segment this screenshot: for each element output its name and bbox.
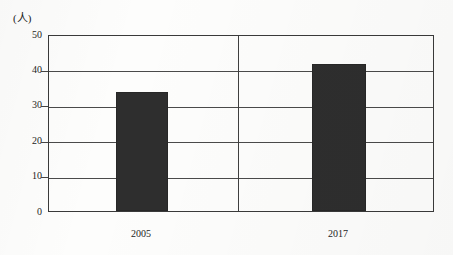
gridline-20 <box>49 142 433 143</box>
bar-2005 <box>116 92 168 211</box>
y-tick-label-20: 20 <box>16 136 42 146</box>
y-tick-label-10: 10 <box>16 171 42 181</box>
bar-chart: (人) 50 40 30 20 10 0 2005 2017 <box>0 0 453 255</box>
x-tick-label-2017: 2017 <box>311 228 365 239</box>
y-tick-mark-40 <box>41 71 48 72</box>
plot-area <box>48 35 434 212</box>
y-tick-label-30: 30 <box>16 100 42 110</box>
gridline-10 <box>49 178 433 179</box>
category-divider <box>238 36 239 211</box>
gridline-30 <box>49 107 433 108</box>
y-tick-label-40: 40 <box>16 65 42 75</box>
y-tick-label-0: 0 <box>16 207 42 217</box>
y-tick-mark-20 <box>41 142 48 143</box>
gridline-40 <box>49 71 433 72</box>
y-tick-label-50: 50 <box>16 30 42 40</box>
y-tick-mark-30 <box>41 106 48 107</box>
y-tick-mark-10 <box>41 177 48 178</box>
bar-2017 <box>312 64 366 211</box>
x-tick-label-2005: 2005 <box>115 228 167 239</box>
y-axis-unit-label: (人) <box>13 9 31 25</box>
